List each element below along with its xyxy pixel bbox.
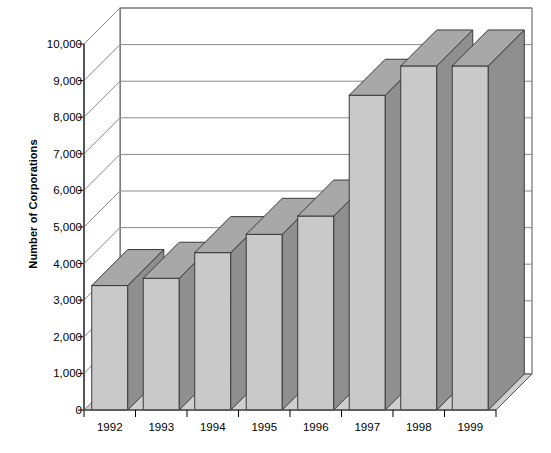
x-axis-tick-labels: 19921993199419951996199719981999 xyxy=(0,0,551,453)
x-tick-label: 1997 xyxy=(354,421,380,433)
x-tick-label: 1993 xyxy=(148,421,174,433)
x-tick-label: 1999 xyxy=(457,421,483,433)
x-tick-label: 1994 xyxy=(200,421,226,433)
bar-chart-figure: Number of Corporations 01,0002,0003,0004… xyxy=(0,0,551,453)
x-tick-label: 1992 xyxy=(97,421,123,433)
x-tick-label: 1998 xyxy=(406,421,432,433)
x-tick-label: 1996 xyxy=(303,421,329,433)
x-tick-label: 1995 xyxy=(251,421,277,433)
